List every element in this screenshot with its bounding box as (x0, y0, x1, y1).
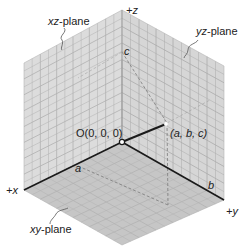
origin-point (119, 139, 124, 144)
z-axis-label: +z (126, 4, 138, 16)
a-label: a (75, 162, 81, 174)
xy-plane-label: xy-plane (29, 223, 72, 235)
origin-label: O(0, 0, 0) (76, 127, 122, 139)
b-label: b (208, 179, 214, 191)
coordinate-diagram: +z +x +y xz-plane yz-plane xy-plane O(0,… (0, 0, 244, 247)
abc-point (164, 122, 168, 126)
y-axis-label: +y (226, 205, 239, 217)
x-axis-label: +x (6, 184, 18, 196)
xz-plane-label: xz-plane (47, 15, 90, 27)
abc-point-label: (a, b, c) (170, 127, 208, 139)
c-label: c (124, 45, 130, 57)
yz-plane-label: yz-plane (195, 25, 238, 37)
